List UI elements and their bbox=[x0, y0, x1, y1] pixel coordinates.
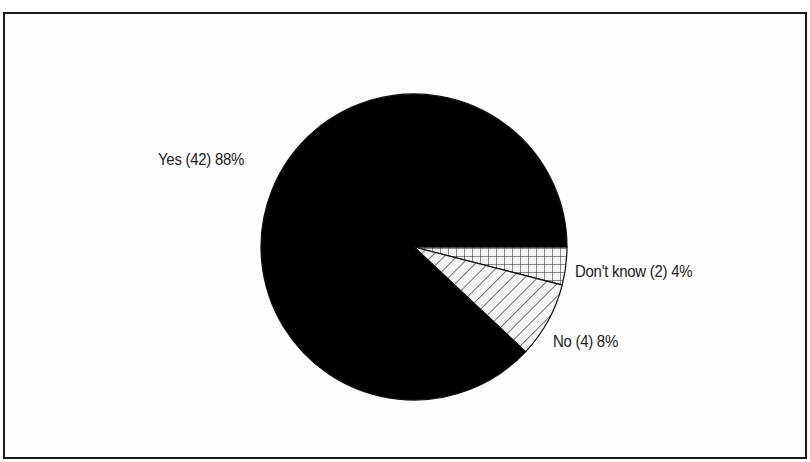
pie-chart bbox=[0, 0, 810, 462]
pie-slice-yes bbox=[261, 94, 567, 400]
label-yes: Yes (42) 88% bbox=[158, 150, 244, 170]
label-dont-know: Don't know (2) 4% bbox=[575, 262, 692, 282]
label-no: No (4) 8% bbox=[553, 332, 618, 352]
